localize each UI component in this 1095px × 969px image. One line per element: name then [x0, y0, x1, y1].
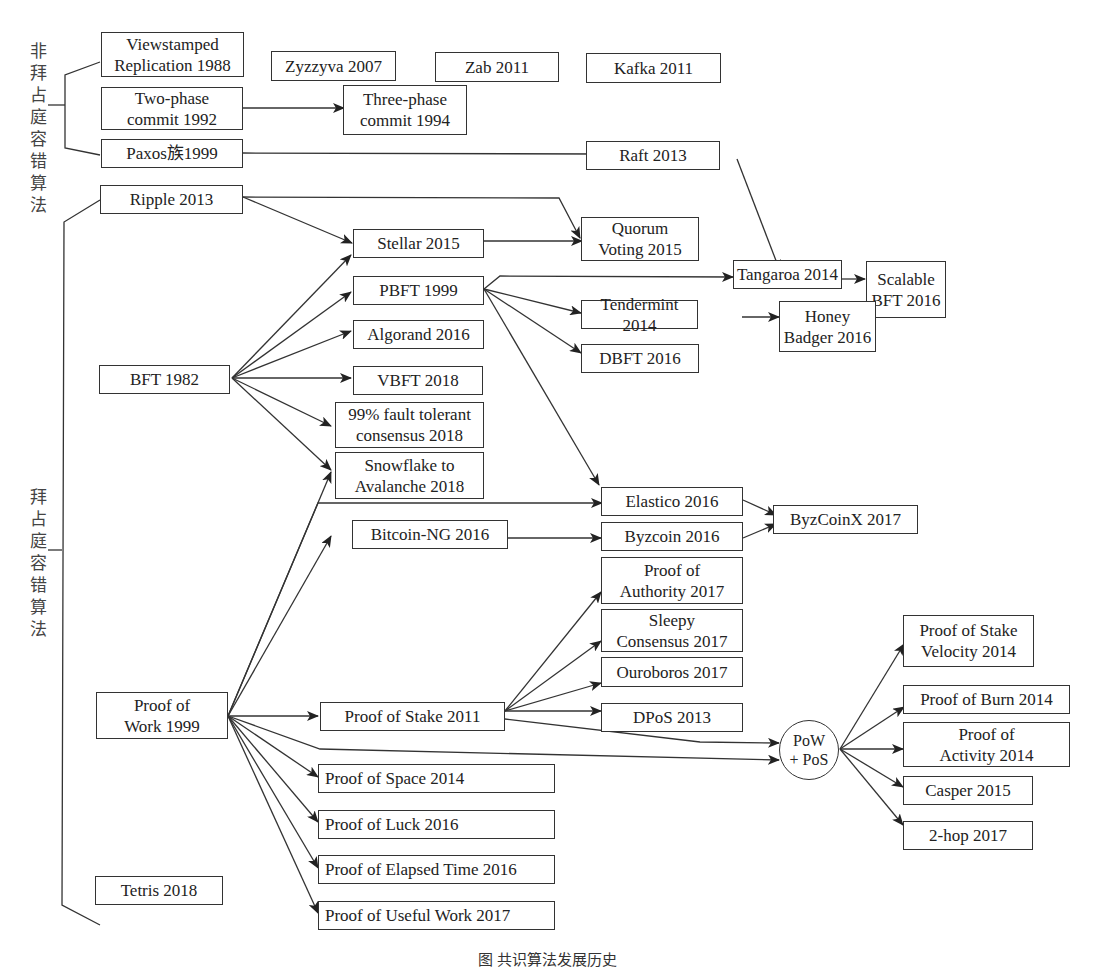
node-bitcoin-ng: Bitcoin-NG 2016	[352, 520, 508, 549]
node-proof-of-luck: Proof of Luck 2016	[318, 810, 555, 839]
node-paxos: Paxos族1999	[101, 139, 243, 168]
node-proof-of-activity: Proof of Activity 2014	[903, 722, 1070, 767]
node-kafka: Kafka 2011	[586, 53, 721, 83]
node-byzcoinx: ByzCoinX 2017	[773, 505, 918, 534]
node-honey-badger: Honey Badger 2016	[779, 301, 876, 352]
node-casper: Casper 2015	[903, 776, 1033, 805]
node-viewstamped-replication: Viewstamped Replication 1988	[101, 32, 244, 77]
node-proof-of-useful-work: Proof of Useful Work 2017	[318, 901, 555, 930]
node-2-hop: 2-hop 2017	[903, 821, 1033, 850]
node-stellar: Stellar 2015	[353, 229, 484, 258]
node-algorand: Algorand 2016	[353, 320, 484, 349]
node-raft: Raft 2013	[586, 141, 720, 170]
node-ripple: Ripple 2013	[100, 185, 243, 214]
node-elastico: Elastico 2016	[601, 487, 743, 516]
node-proof-of-space: Proof of Space 2014	[318, 764, 555, 793]
node-sleepy-consensus: Sleepy Consensus 2017	[601, 609, 743, 652]
node-scalable-bft: Scalable BFT 2016	[866, 261, 946, 318]
group-label-byzantine: 拜占庭容错算法	[28, 486, 48, 640]
node-two-phase-commit: Two-phase commit 1992	[101, 87, 243, 130]
node-proof-of-stake: Proof of Stake 2011	[320, 702, 505, 731]
node-99-fault-tolerant: 99% fault tolerant consensus 2018	[335, 402, 484, 448]
node-tetris: Tetris 2018	[95, 876, 223, 905]
node-proof-of-authority: Proof of Authority 2017	[601, 557, 743, 604]
node-tendermint: Tendermint 2014	[581, 300, 698, 329]
node-pbft: PBFT 1999	[353, 276, 484, 305]
node-pow-plus-pos: PoW + PoS	[779, 720, 839, 780]
node-bft: BFT 1982	[99, 365, 230, 394]
figure-caption: 图 共识算法发展历史	[0, 948, 1095, 969]
node-dbft: DBFT 2016	[581, 344, 699, 373]
node-ouroboros: Ouroboros 2017	[601, 657, 743, 687]
node-proof-of-stake-velocity: Proof of Stake Velocity 2014	[903, 615, 1034, 667]
node-proof-of-burn: Proof of Burn 2014	[903, 685, 1070, 714]
node-quorum-voting: Quorum Voting 2015	[581, 217, 699, 261]
node-three-phase-commit: Three-phase commit 1994	[343, 85, 467, 135]
node-byzcoin: Byzcoin 2016	[601, 522, 743, 551]
node-zab: Zab 2011	[435, 52, 559, 82]
node-tangaroa: Tangaroa 2014	[733, 260, 842, 289]
node-dpos: DPoS 2013	[601, 703, 743, 732]
node-snowflake-avalanche: Snowflake to Avalanche 2018	[335, 452, 484, 499]
node-vbft: VBFT 2018	[353, 366, 483, 395]
node-zyzzyva: Zyzzyva 2007	[271, 51, 396, 81]
group-label-non-byzantine: 非拜占庭容错算法	[28, 40, 48, 216]
node-proof-of-work: Proof of Work 1999	[96, 692, 228, 739]
node-proof-of-elapsed-time: Proof of Elapsed Time 2016	[318, 855, 555, 884]
